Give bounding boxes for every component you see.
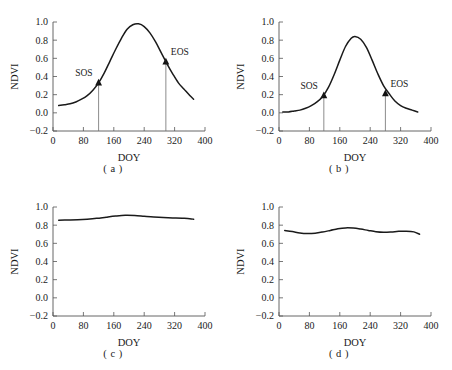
x-tick-label: 160: [332, 320, 347, 331]
ndvi-curve: [285, 228, 420, 234]
y-tick-label: 0.6: [36, 53, 49, 64]
x-tick-label: 160: [332, 135, 347, 146]
y-tick-label: 0.2: [36, 274, 49, 285]
ndvi-curve: [283, 36, 418, 111]
y-tick-label: 0.4: [262, 256, 275, 267]
x-tick-label: 80: [304, 320, 314, 331]
y-tick-label: 0.0: [36, 292, 49, 303]
caption-panel-c: ( c ): [0, 348, 226, 359]
y-tick-label: 0.2: [262, 89, 275, 100]
y-tick-label: 1.0: [262, 16, 275, 27]
y-tick-label: 0.2: [262, 274, 275, 285]
caption-panel-d: ( d ): [226, 348, 452, 359]
y-tick-label: 1.0: [262, 201, 275, 212]
y-tick-label: −0.2: [256, 310, 274, 321]
y-tick-label: 0.6: [36, 238, 49, 249]
y-tick-label: 0.0: [262, 107, 275, 118]
panel-b: −0.20.00.20.40.60.81.0080160240320400SOS…: [226, 0, 452, 185]
plot-d: −0.20.00.20.40.60.81.0080160240320400DOY…: [226, 185, 452, 370]
panel-a: −0.20.00.20.40.60.81.0080160240320400SOS…: [0, 0, 226, 185]
x-tick-label: 320: [393, 135, 408, 146]
plot-a: −0.20.00.20.40.60.81.0080160240320400SOS…: [0, 0, 226, 185]
y-tick-label: 0.6: [262, 238, 275, 249]
caption-panel-a: ( a ): [0, 163, 226, 174]
x-tick-label: 240: [363, 135, 378, 146]
x-tick-label: 320: [167, 135, 182, 146]
x-tick-label: 160: [106, 135, 121, 146]
caption-panel-b: ( b ): [226, 163, 452, 174]
x-axis-title: DOY: [344, 337, 367, 348]
y-axis-title: NDVI: [9, 248, 20, 275]
y-tick-label: 0.8: [262, 220, 275, 231]
ndvi-curve: [59, 215, 194, 220]
x-tick-label: 400: [424, 135, 439, 146]
x-tick-label: 80: [78, 135, 88, 146]
y-tick-label: −0.2: [30, 125, 48, 136]
axis-lines: [53, 207, 205, 316]
plot-b: −0.20.00.20.40.60.81.0080160240320400SOS…: [226, 0, 452, 185]
y-tick-label: 0.8: [36, 35, 49, 46]
y-tick-label: −0.2: [256, 125, 274, 136]
label-eos: EOS: [390, 79, 408, 89]
x-tick-label: 400: [198, 135, 213, 146]
x-tick-label: 320: [167, 320, 182, 331]
y-tick-label: 0.0: [36, 107, 49, 118]
panel-c: −0.20.00.20.40.60.81.0080160240320400DOY…: [0, 185, 226, 370]
y-tick-label: 0.8: [262, 35, 275, 46]
y-axis-title: NDVI: [9, 63, 20, 90]
x-tick-label: 240: [137, 320, 152, 331]
y-tick-label: 0.4: [36, 256, 49, 267]
panel-d: −0.20.00.20.40.60.81.0080160240320400DOY…: [226, 185, 452, 370]
x-tick-label: 400: [198, 320, 213, 331]
y-tick-label: 0.4: [36, 71, 49, 82]
y-tick-label: 0.2: [36, 89, 49, 100]
label-eos: EOS: [171, 47, 189, 57]
label-sos: SOS: [300, 81, 317, 91]
y-tick-label: 0.4: [262, 71, 275, 82]
x-tick-label: 0: [51, 320, 56, 331]
axis-lines: [279, 22, 431, 131]
x-tick-label: 320: [393, 320, 408, 331]
y-axis-title: NDVI: [235, 248, 246, 275]
x-tick-label: 400: [424, 320, 439, 331]
label-sos: SOS: [75, 68, 92, 78]
axis-lines: [279, 207, 431, 316]
ndvi-curve: [59, 24, 194, 106]
x-axis-title: DOY: [118, 337, 141, 348]
x-tick-label: 80: [304, 135, 314, 146]
x-tick-label: 0: [51, 135, 56, 146]
y-tick-label: 0.0: [262, 292, 275, 303]
x-tick-label: 240: [363, 320, 378, 331]
ndvi-phenology-figure: −0.20.00.20.40.60.81.0080160240320400SOS…: [0, 0, 452, 370]
plot-c: −0.20.00.20.40.60.81.0080160240320400DOY…: [0, 185, 226, 370]
y-axis-title: NDVI: [235, 63, 246, 90]
y-tick-label: 1.0: [36, 201, 49, 212]
y-tick-label: 1.0: [36, 16, 49, 27]
x-tick-label: 240: [137, 135, 152, 146]
y-tick-label: 0.6: [262, 53, 275, 64]
x-axis-title: DOY: [344, 152, 367, 163]
x-tick-label: 0: [277, 135, 282, 146]
x-tick-label: 0: [277, 320, 282, 331]
x-tick-label: 80: [78, 320, 88, 331]
x-axis-title: DOY: [118, 152, 141, 163]
y-tick-label: 0.8: [36, 220, 49, 231]
x-tick-label: 160: [106, 320, 121, 331]
y-tick-label: −0.2: [30, 310, 48, 321]
